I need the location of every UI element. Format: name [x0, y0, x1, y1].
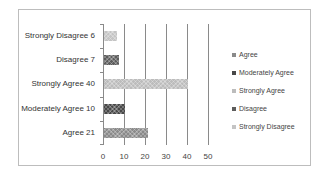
legend-label: Moderately Agree: [239, 68, 294, 78]
legend-label: Agree: [239, 50, 258, 60]
x-tick-label: 30: [156, 152, 176, 162]
x-tick-label: 10: [114, 152, 134, 162]
y-tick: [100, 121, 103, 122]
category-label: Strongly Agree 40: [31, 79, 95, 89]
legend-swatch-icon: [232, 53, 236, 57]
category-label: Strongly Disagree 6: [25, 31, 95, 41]
legend-swatch-icon: [232, 107, 236, 111]
x-tick-label: 50: [198, 152, 218, 162]
bar-disagree: [104, 55, 119, 65]
y-tick: [100, 48, 103, 49]
legend-label: Disagree: [239, 104, 267, 114]
x-tick-label: 40: [177, 152, 197, 162]
bar-moderately-agree: [104, 104, 125, 114]
category-label: Moderately Agree 10: [21, 104, 95, 114]
bar-strongly-agree: [104, 79, 188, 89]
x-tick-label: 20: [135, 152, 155, 162]
plot-area: [103, 24, 208, 145]
legend-swatch-icon: [232, 125, 236, 129]
x-tick-label: 0: [93, 152, 113, 162]
legend-label: Strongly Disagree: [239, 122, 295, 132]
legend-label: Strongly Agree: [239, 86, 285, 96]
y-tick: [100, 72, 103, 73]
bar-agree: [104, 128, 148, 138]
y-tick: [100, 144, 103, 145]
y-tick: [100, 24, 103, 25]
bar-strongly-disagree: [104, 31, 117, 41]
category-label: Disagree 7: [56, 55, 95, 65]
y-tick: [100, 97, 103, 98]
legend-swatch-icon: [232, 89, 236, 93]
gridline-50: [208, 24, 209, 145]
legend-swatch-icon: [232, 71, 236, 75]
category-label: Agree 21: [63, 128, 95, 138]
